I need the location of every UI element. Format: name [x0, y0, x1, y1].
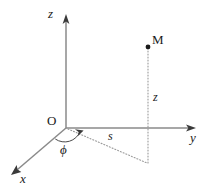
coordinate-axes-svg [0, 0, 204, 191]
origin-label: O [47, 114, 56, 127]
radial-measure-label: s [108, 130, 113, 142]
z-axis-label: z [48, 7, 53, 20]
x-axis-group [11, 128, 66, 175]
y-axis-label: y [190, 131, 196, 144]
phi-angle-label: ϕ [60, 143, 67, 156]
point-m-dot [146, 45, 151, 50]
y-axis-group [66, 125, 196, 132]
height-measure-label: z [153, 91, 158, 103]
x-axis-label: x [20, 172, 26, 185]
x-axis-line [18, 128, 67, 170]
point-m-label: M [152, 33, 164, 46]
cylindrical-coordinates-diagram: O z y x M z s ϕ [0, 0, 204, 191]
z-axis-group [63, 14, 70, 128]
